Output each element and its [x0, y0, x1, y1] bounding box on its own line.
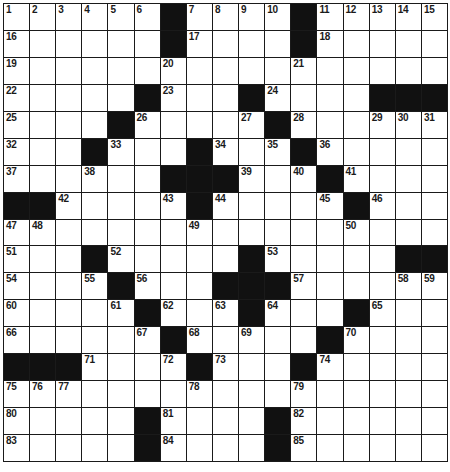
grid-cell[interactable]: 81 [161, 408, 186, 434]
grid-cell[interactable] [344, 139, 369, 165]
grid-cell[interactable] [317, 220, 342, 246]
grid-cell[interactable]: 78 [187, 381, 212, 407]
grid-cell[interactable] [82, 435, 107, 461]
grid-cell[interactable] [213, 220, 238, 246]
grid-cell[interactable] [396, 354, 421, 380]
grid-cell[interactable] [396, 435, 421, 461]
grid-cell[interactable] [344, 246, 369, 272]
grid-cell[interactable]: 5 [108, 4, 133, 30]
grid-cell[interactable]: 72 [161, 354, 186, 380]
grid-cell[interactable] [30, 246, 55, 272]
grid-cell[interactable]: 35 [265, 139, 290, 165]
grid-cell[interactable] [187, 85, 212, 111]
grid-cell[interactable]: 4 [82, 4, 107, 30]
grid-cell[interactable] [317, 273, 342, 299]
grid-cell[interactable]: 7 [187, 4, 212, 30]
grid-cell[interactable]: 64 [265, 300, 290, 326]
grid-cell[interactable] [56, 220, 81, 246]
grid-cell[interactable] [213, 31, 238, 57]
grid-cell[interactable] [56, 327, 81, 353]
grid-cell[interactable]: 34 [213, 139, 238, 165]
grid-cell[interactable] [108, 354, 133, 380]
grid-cell[interactable] [239, 408, 264, 434]
grid-cell[interactable] [213, 246, 238, 272]
grid-cell[interactable] [187, 300, 212, 326]
grid-cell[interactable] [422, 166, 447, 192]
grid-cell[interactable] [30, 58, 55, 84]
grid-cell[interactable] [370, 435, 395, 461]
grid-cell[interactable]: 51 [4, 246, 29, 272]
grid-cell[interactable] [187, 246, 212, 272]
grid-cell[interactable]: 75 [4, 381, 29, 407]
grid-cell[interactable] [108, 166, 133, 192]
grid-cell[interactable] [265, 166, 290, 192]
grid-cell[interactable]: 28 [291, 112, 316, 138]
grid-cell[interactable] [396, 300, 421, 326]
grid-cell[interactable] [370, 220, 395, 246]
grid-cell[interactable] [265, 58, 290, 84]
grid-cell[interactable] [108, 408, 133, 434]
grid-cell[interactable] [344, 273, 369, 299]
grid-cell[interactable] [108, 381, 133, 407]
grid-cell[interactable]: 77 [56, 381, 81, 407]
grid-cell[interactable] [370, 354, 395, 380]
grid-cell[interactable]: 16 [4, 31, 29, 57]
grid-cell[interactable]: 1 [4, 4, 29, 30]
grid-cell[interactable]: 27 [239, 112, 264, 138]
grid-cell[interactable] [135, 58, 160, 84]
grid-cell[interactable] [291, 193, 316, 219]
grid-cell[interactable] [317, 85, 342, 111]
grid-cell[interactable] [239, 193, 264, 219]
grid-cell[interactable]: 85 [291, 435, 316, 461]
grid-cell[interactable]: 63 [213, 300, 238, 326]
grid-cell[interactable] [82, 327, 107, 353]
grid-cell[interactable]: 19 [4, 58, 29, 84]
grid-cell[interactable] [344, 435, 369, 461]
grid-cell[interactable] [187, 273, 212, 299]
grid-cell[interactable]: 15 [422, 4, 447, 30]
grid-cell[interactable] [30, 273, 55, 299]
grid-cell[interactable] [56, 246, 81, 272]
grid-cell[interactable]: 13 [370, 4, 395, 30]
grid-cell[interactable] [30, 435, 55, 461]
grid-cell[interactable] [135, 381, 160, 407]
grid-cell[interactable] [317, 381, 342, 407]
grid-cell[interactable] [108, 435, 133, 461]
grid-cell[interactable] [108, 58, 133, 84]
grid-cell[interactable] [108, 85, 133, 111]
grid-cell[interactable] [422, 220, 447, 246]
grid-cell[interactable] [213, 435, 238, 461]
grid-cell[interactable]: 71 [82, 354, 107, 380]
grid-cell[interactable]: 14 [396, 4, 421, 30]
grid-cell[interactable] [187, 408, 212, 434]
grid-cell[interactable] [265, 327, 290, 353]
grid-cell[interactable]: 12 [344, 4, 369, 30]
grid-cell[interactable] [370, 31, 395, 57]
grid-cell[interactable] [108, 327, 133, 353]
grid-cell[interactable] [30, 327, 55, 353]
grid-cell[interactable]: 36 [317, 139, 342, 165]
grid-cell[interactable] [56, 139, 81, 165]
grid-cell[interactable] [82, 408, 107, 434]
grid-cell[interactable] [161, 381, 186, 407]
grid-cell[interactable] [396, 58, 421, 84]
grid-cell[interactable] [291, 327, 316, 353]
grid-cell[interactable]: 69 [239, 327, 264, 353]
grid-cell[interactable] [30, 300, 55, 326]
grid-cell[interactable] [265, 220, 290, 246]
grid-cell[interactable] [265, 193, 290, 219]
grid-cell[interactable] [213, 327, 238, 353]
grid-cell[interactable] [82, 300, 107, 326]
grid-cell[interactable] [291, 246, 316, 272]
grid-cell[interactable] [82, 220, 107, 246]
grid-cell[interactable] [56, 31, 81, 57]
grid-cell[interactable] [56, 273, 81, 299]
grid-cell[interactable]: 67 [135, 327, 160, 353]
grid-cell[interactable]: 59 [422, 273, 447, 299]
grid-cell[interactable]: 47 [4, 220, 29, 246]
grid-cell[interactable] [213, 112, 238, 138]
grid-cell[interactable] [187, 58, 212, 84]
grid-cell[interactable] [161, 273, 186, 299]
grid-cell[interactable] [108, 193, 133, 219]
grid-cell[interactable] [213, 85, 238, 111]
